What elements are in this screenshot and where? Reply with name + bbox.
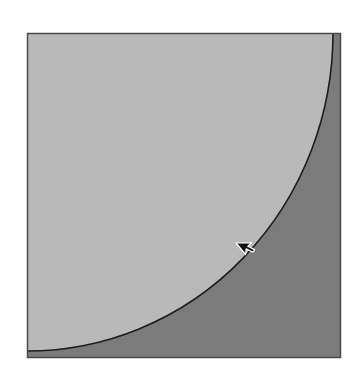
quarter-circle-figure xyxy=(0,0,362,382)
